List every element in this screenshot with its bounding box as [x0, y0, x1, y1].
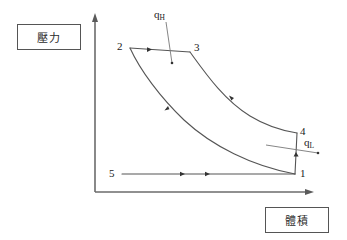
arrow-marker-1-2	[164, 106, 169, 111]
state-point-label-5: 5	[109, 168, 115, 179]
process-3-4-curve	[190, 52, 297, 133]
x-axis-label-box: 體積	[265, 207, 329, 233]
cycle-paths	[122, 48, 297, 174]
direction-markers	[147, 47, 299, 176]
axes-group	[92, 13, 314, 195]
y-axis-arrowhead	[92, 13, 98, 22]
y-axis-label-box: 壓力	[17, 24, 81, 50]
ql-base-text: q	[304, 136, 310, 148]
arrow-marker-2-3	[147, 47, 152, 52]
x-axis-arrowhead	[305, 189, 314, 195]
arrow-marker-5-1-a	[180, 172, 185, 177]
ql-leader-endpoint-dot	[317, 152, 320, 155]
arrow-marker-5-1-b	[205, 172, 210, 177]
y-axis-label-text: 壓力	[37, 29, 61, 45]
heat-input-label-qh: qH	[154, 9, 165, 20]
state-point-label-2: 2	[117, 41, 123, 52]
process-2-3-line	[130, 48, 190, 52]
heat-output-label-ql: qL	[304, 137, 314, 148]
qh-subscript-text: H	[160, 13, 165, 22]
qh-base-text: q	[154, 8, 160, 20]
process-1-2-curve	[130, 48, 295, 174]
qh-leader-line	[166, 22, 172, 63]
qh-leader-endpoint-dot	[171, 62, 174, 65]
ql-subscript-text: L	[310, 141, 315, 150]
state-point-label-3: 3	[194, 42, 200, 53]
arrow-marker-4-1	[294, 152, 299, 157]
annotation-leaders	[166, 22, 319, 154]
x-axis-label-text: 體積	[285, 212, 309, 228]
state-point-label-1: 1	[300, 168, 306, 179]
